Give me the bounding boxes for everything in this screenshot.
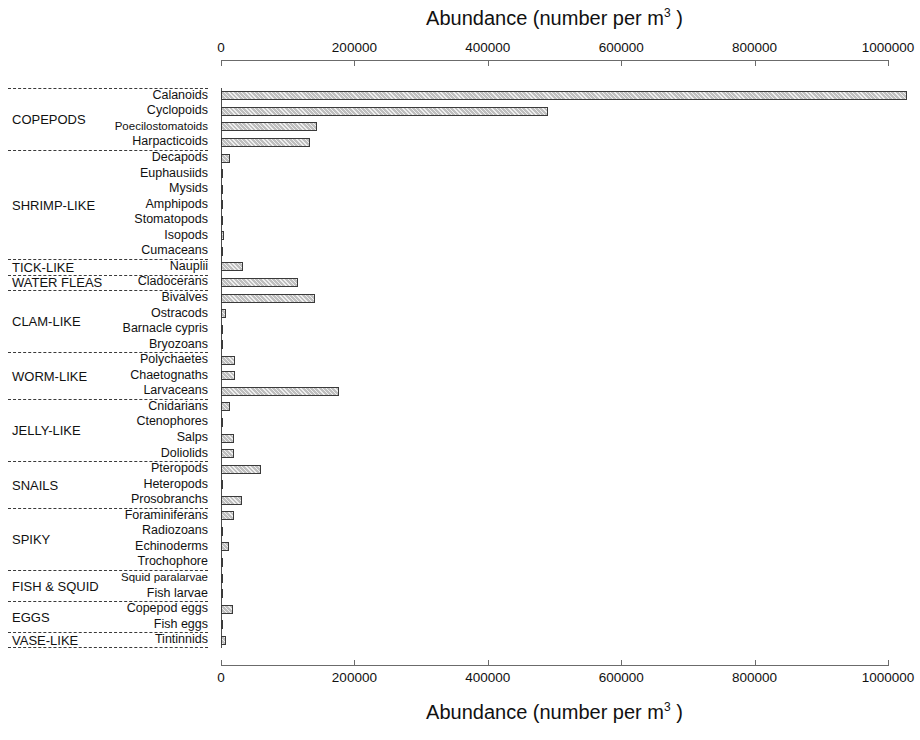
x-axis-tick <box>488 60 489 66</box>
taxon-label: Cyclopoids <box>0 104 208 117</box>
taxon-label: Amphipods <box>0 198 208 211</box>
taxon-label: Stomatopods <box>0 213 208 226</box>
bar <box>221 402 230 411</box>
x-axis-tick-label: 400000 <box>465 670 510 685</box>
bar <box>221 231 224 240</box>
bar <box>221 542 229 551</box>
x-axis-tick-label: 1000000 <box>862 670 915 685</box>
taxon-label: Calanoids <box>0 89 208 102</box>
bar <box>221 605 233 614</box>
taxon-label: Ostracods <box>0 307 208 320</box>
bar <box>221 154 230 163</box>
bar <box>221 278 298 287</box>
taxon-label: Salps <box>0 431 208 444</box>
x-axis-tick <box>221 660 222 666</box>
taxon-label: Bryozoans <box>0 338 208 351</box>
bar <box>221 496 242 505</box>
bar <box>221 200 223 209</box>
taxon-label: Pteropods <box>0 462 208 475</box>
x-axis-tick <box>621 660 622 666</box>
bar <box>221 371 235 380</box>
x-axis-tick-label: 400000 <box>465 40 510 55</box>
chart-figure: Abundance (number per m3 ) 0200000400000… <box>0 0 920 740</box>
taxon-label: Decapods <box>0 151 208 164</box>
taxon-label: Fish larvae <box>0 587 208 600</box>
axis-title-bottom-tail: ) <box>671 701 683 723</box>
taxon-label: Copepod eggs <box>0 602 208 615</box>
taxon-label: Foraminiferans <box>0 509 208 522</box>
bar <box>221 294 315 303</box>
x-axis-top: 02000004000006000008000001000000 <box>221 40 888 70</box>
x-axis-tick <box>354 660 355 666</box>
taxon-label: Ctenophores <box>0 415 208 428</box>
x-axis-tick <box>488 660 489 666</box>
x-axis-tick-label: 200000 <box>332 40 377 55</box>
bar <box>221 340 223 349</box>
bar <box>221 434 234 443</box>
axis-title-bottom: Abundance (number per m3 ) <box>221 700 888 724</box>
x-axis-tick-label: 600000 <box>599 40 644 55</box>
taxon-label: Cumaceans <box>0 244 208 257</box>
x-axis-bottom-line <box>221 665 888 666</box>
taxon-label: Euphausiids <box>0 167 208 180</box>
x-axis-tick-label: 800000 <box>732 670 777 685</box>
axis-title-top-exponent: 3 <box>664 6 671 20</box>
taxon-label: Prosobranchs <box>0 493 208 506</box>
bar <box>221 185 223 194</box>
bar <box>221 480 223 489</box>
x-axis-tick-label: 0 <box>217 40 225 55</box>
plot-area <box>221 88 888 648</box>
axis-title-top-main: Abundance (number per m <box>426 7 664 29</box>
taxon-label: Echinoderms <box>0 540 208 553</box>
axis-title-bottom-exponent: 3 <box>664 700 671 714</box>
bar <box>221 216 223 225</box>
taxon-label: Chaetognaths <box>0 369 208 382</box>
taxon-label: Doliolids <box>0 447 208 460</box>
bar <box>221 558 223 567</box>
bar <box>221 107 548 116</box>
x-axis-tick-label: 1000000 <box>862 40 915 55</box>
bar <box>221 122 317 131</box>
x-axis-bottom: 02000004000006000008000001000000 <box>221 665 888 695</box>
taxon-label: Cnidarians <box>0 400 208 413</box>
x-axis-tick <box>888 660 889 666</box>
bar <box>221 574 223 583</box>
bar <box>221 262 243 271</box>
x-axis-tick <box>755 660 756 666</box>
bar <box>221 325 223 334</box>
bar <box>221 418 223 427</box>
bar <box>221 356 235 365</box>
bar <box>221 511 234 520</box>
taxon-label: Tintinnids <box>0 633 208 646</box>
taxon-label: Mysids <box>0 182 208 195</box>
taxon-label: Bivalves <box>0 291 208 304</box>
bar <box>221 449 234 458</box>
taxon-label: Isopods <box>0 229 208 242</box>
taxon-label: Cladocerans <box>0 275 208 288</box>
x-axis-tick <box>354 60 355 66</box>
taxon-label: Squid paralarvae <box>0 571 208 584</box>
x-axis-tick-label: 0 <box>217 670 225 685</box>
taxon-label: Nauplii <box>0 260 208 273</box>
bar <box>221 91 907 100</box>
taxon-label: Barnacle cypris <box>0 322 208 335</box>
x-axis-tick-label: 600000 <box>599 670 644 685</box>
taxon-label: Trochophore <box>0 555 208 568</box>
taxon-label: Radiozoans <box>0 524 208 537</box>
bar <box>221 589 223 598</box>
taxon-label: Fish eggs <box>0 618 208 631</box>
bar <box>221 636 226 645</box>
bar <box>221 527 223 536</box>
bar <box>221 247 223 256</box>
bar <box>221 387 339 396</box>
x-axis-tick <box>755 60 756 66</box>
axis-title-top-tail: ) <box>671 7 683 29</box>
x-axis-tick <box>621 60 622 66</box>
x-axis-top-line <box>221 60 888 61</box>
bar <box>221 465 261 474</box>
x-axis-tick <box>221 60 222 66</box>
x-axis-tick <box>888 60 889 66</box>
x-axis-tick-label: 800000 <box>732 40 777 55</box>
axis-title-top: Abundance (number per m3 ) <box>221 6 888 30</box>
taxon-label: Harpacticoids <box>0 135 208 148</box>
